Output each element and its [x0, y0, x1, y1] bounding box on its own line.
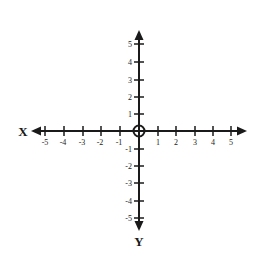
- y-tick-label: 5: [128, 40, 132, 49]
- x-axis-right-arrow-icon: [237, 127, 247, 136]
- x-tick-label: 2: [174, 138, 178, 147]
- x-tick-label: 1: [156, 138, 160, 147]
- y-tick-label: 4: [128, 58, 132, 67]
- y-axis-label: Y: [134, 234, 144, 249]
- y-tick-label: 2: [128, 93, 132, 102]
- y-tick-label: 3: [128, 76, 132, 85]
- y-tick-label: -3: [125, 179, 132, 188]
- x-tick-label: -4: [60, 138, 67, 147]
- x-tick-label: -3: [79, 138, 86, 147]
- x-tick-labels: -5 -4 -3 -2 -1 1 2 3 4 5: [42, 138, 233, 147]
- y-axis-up-arrow-icon: [135, 30, 144, 40]
- y-tick-label: -4: [125, 197, 132, 206]
- x-tick-label: 3: [193, 138, 197, 147]
- y-tick-label: 1: [128, 110, 132, 119]
- x-axis-left-arrow-icon: [31, 127, 41, 136]
- y-axis-down-arrow-icon: [135, 221, 144, 231]
- y-tick-label: -1: [125, 145, 132, 154]
- x-axis-label: X: [18, 124, 28, 139]
- x-tick-label: -5: [42, 138, 49, 147]
- y-tick-label: -2: [125, 162, 132, 171]
- x-tick-label: 4: [211, 138, 215, 147]
- y-tick-label: -5: [125, 214, 132, 223]
- coordinate-plane: -5 -4 -3 -2 -1 1 2 3 4 5 5 4 3 2 1 -1 -2…: [0, 0, 259, 261]
- x-tick-label: -2: [97, 138, 104, 147]
- x-tick-label: 5: [229, 138, 233, 147]
- x-tick-label: -1: [116, 138, 123, 147]
